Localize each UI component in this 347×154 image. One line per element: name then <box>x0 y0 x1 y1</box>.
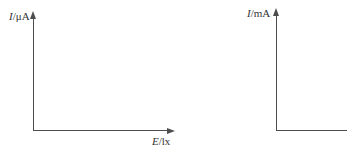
left-y-axis-arrow-icon <box>30 11 36 19</box>
right-x-axis-line <box>276 130 347 131</box>
figure-canvas: I/μA E/lx I/mA <box>0 0 347 154</box>
left-x-axis-line <box>33 130 168 131</box>
right-y-axis-label: I/mA <box>247 8 270 19</box>
left-x-axis-label: E/lx <box>152 136 170 147</box>
left-y-axis-line <box>33 16 34 131</box>
left-y-axis-label: I/μA <box>9 11 30 22</box>
right-y-unit: /mA <box>251 7 271 19</box>
left-y-unit: /μA <box>13 10 30 22</box>
left-x-axis-arrow-icon <box>167 128 175 134</box>
right-y-axis-line <box>276 13 277 131</box>
left-x-unit: /lx <box>159 135 171 147</box>
left-x-quantity: E <box>152 135 159 147</box>
right-y-axis-arrow-icon <box>273 8 279 16</box>
